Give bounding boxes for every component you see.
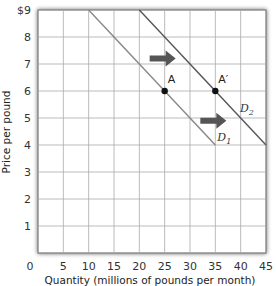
y-tick-label: 2 [24, 193, 31, 206]
x-axis-label: Quantity (millions of pounds per month) [45, 274, 256, 286]
x-tick-label: 10 [82, 260, 96, 273]
y-tick-label: 7 [24, 58, 31, 71]
x-tick-label: 0 [27, 260, 34, 273]
y-tick-label: 3 [24, 166, 31, 179]
plot-area [38, 10, 266, 253]
x-tick-label: 5 [60, 260, 67, 273]
x-tick-label: 20 [132, 260, 146, 273]
demand-shift-chart: D1D2 AA′ 051015202530354045 12345678$9 Q… [0, 0, 276, 286]
y-axis-label: Price per pound [0, 91, 12, 174]
x-tick-label: 30 [183, 260, 197, 273]
x-tick-label: 25 [158, 260, 172, 273]
y-tick-label: 4 [24, 139, 31, 152]
y-tick-label: 1 [24, 220, 31, 233]
point-label: A′ [218, 73, 229, 86]
x-tick-label: 45 [259, 260, 273, 273]
x-tick-label: 40 [234, 260, 248, 273]
y-axis-ticks: 12345678$9 [17, 4, 31, 233]
y-tick-label: $9 [17, 4, 31, 17]
y-tick-label: 6 [24, 85, 31, 98]
point-label: A [168, 73, 176, 86]
x-tick-label: 35 [208, 260, 222, 273]
point-marker [161, 88, 167, 94]
x-axis-ticks: 051015202530354045 [27, 260, 274, 273]
y-tick-label: 5 [24, 112, 31, 125]
point-marker [212, 88, 218, 94]
x-tick-label: 15 [107, 260, 121, 273]
y-tick-label: 8 [24, 31, 31, 44]
